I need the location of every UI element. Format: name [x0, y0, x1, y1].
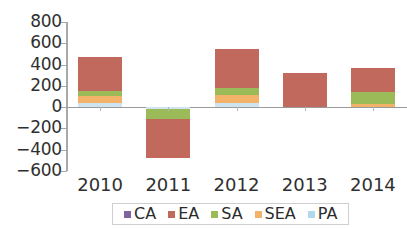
y-axis-tick-label: 0 — [0, 98, 62, 115]
legend-item[interactable]: EA — [168, 206, 199, 222]
plot-area: 8006004002000−200−400−600 — [66, 22, 407, 171]
bar-group[interactable] — [78, 22, 122, 171]
bar-group[interactable] — [215, 22, 259, 171]
x-axis-label: 2010 — [66, 176, 134, 194]
bar-segment[interactable] — [146, 119, 190, 157]
chart-container: 8006004002000−200−400−600 CAEASASEAPA 20… — [0, 0, 407, 228]
bar-group[interactable] — [283, 22, 327, 171]
x-axis-label: 2014 — [339, 176, 407, 194]
chart-title-cropped — [0, 0, 407, 9]
y-axis-spine — [66, 22, 68, 171]
bar-segment[interactable] — [215, 95, 259, 103]
x-axis-label: 2013 — [271, 176, 339, 194]
y-axis-tick-label: −600 — [0, 162, 62, 179]
y-axis-tick-label: 600 — [0, 34, 62, 51]
legend-label: CA — [134, 206, 156, 222]
x-axis-tick — [373, 107, 374, 111]
legend-swatch-sa — [211, 211, 218, 218]
legend-item[interactable]: SEA — [255, 206, 296, 222]
x-axis-label: 2011 — [134, 176, 202, 194]
bar-segment[interactable] — [78, 57, 122, 91]
bar-segment[interactable] — [215, 88, 259, 95]
bar-segment[interactable] — [215, 49, 259, 88]
legend-label: SEA — [265, 206, 296, 222]
bar-segment[interactable] — [78, 91, 122, 96]
x-axis-tick — [100, 107, 101, 111]
legend-label: PA — [318, 206, 338, 222]
legend-label: SA — [221, 206, 242, 222]
x-axis-label: 2012 — [202, 176, 270, 194]
bar-segment[interactable] — [351, 92, 395, 104]
bar-group[interactable] — [146, 22, 190, 171]
legend-item[interactable]: PA — [308, 206, 338, 222]
x-axis-tick — [168, 107, 169, 111]
y-axis-tick-label: 400 — [0, 56, 62, 73]
legend-label: EA — [178, 206, 199, 222]
y-axis-tick-label: −400 — [0, 141, 62, 158]
bar-group[interactable] — [351, 22, 395, 171]
y-axis-tick-label: −200 — [0, 119, 62, 136]
bar-segment[interactable] — [283, 73, 327, 107]
legend-swatch-sea — [255, 211, 262, 218]
bar-segment[interactable] — [78, 96, 122, 103]
chart-legend: CAEASASEAPA — [112, 203, 349, 225]
x-axis-tick — [237, 107, 238, 111]
y-axis-tick-label: 800 — [0, 13, 62, 30]
bar-segment[interactable] — [351, 68, 395, 91]
legend-swatch-ea — [168, 211, 175, 218]
x-axis-tick — [305, 107, 306, 111]
legend-item[interactable]: SA — [211, 206, 242, 222]
legend-item[interactable]: CA — [124, 206, 156, 222]
legend-swatch-pa — [308, 211, 315, 218]
y-axis-tick-label: 200 — [0, 77, 62, 94]
legend-swatch-ca — [124, 211, 131, 218]
